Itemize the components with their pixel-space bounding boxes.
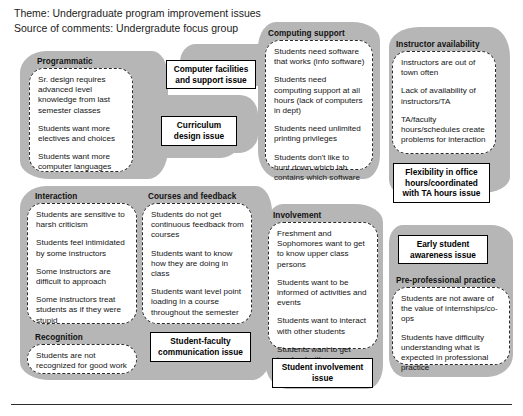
note-text: Students do not get continuous feedback …: [151, 210, 244, 241]
issue-label: Computer facilities and support issue: [171, 64, 251, 85]
issue-box-student-involvement[interactable]: Student involvement issue: [272, 358, 373, 388]
issue-label: Early student awareness issue: [403, 239, 483, 260]
cluster-title-recognition: Recognition: [35, 333, 83, 342]
issue-box-student-faculty-communication[interactable]: Student-faculty communication issue: [150, 332, 251, 362]
affinity-diagram-canvas: Theme: Undergraduate program improvement…: [0, 0, 523, 416]
note-text: Some instructors treat students as if th…: [36, 295, 129, 326]
note-card-recognition: Students are not recognized for good wor…: [27, 344, 137, 374]
issue-box-early-student-awareness[interactable]: Early student awareness issue: [398, 235, 488, 264]
note-text: Students want more computer languages: [38, 152, 125, 172]
cluster-title-involvement: Involvement: [273, 211, 321, 220]
note-text: Students want more electives and choices: [38, 124, 125, 144]
note-text: Students want to know how they are doing…: [151, 249, 244, 280]
note-text: Students are not recognized for good wor…: [36, 351, 129, 371]
note-text: Instructors are out of town often: [401, 58, 488, 78]
note-text: Students need unlimited printing privile…: [274, 124, 365, 144]
note-card-pre-professional-practice: Students are not aware of the value of i…: [392, 287, 510, 365]
note-text: Freshment and Sophomores want to get to …: [277, 229, 370, 270]
note-card-courses-and-feedback: Students do not get continuous feedback …: [142, 203, 252, 324]
issue-label: Student involvement issue: [277, 362, 368, 383]
note-text: Students want to interact with other stu…: [277, 316, 370, 336]
source-line: Source of comments: Undergradute focus g…: [14, 21, 261, 36]
diagram-header: Theme: Undergraduate program improvement…: [14, 6, 261, 35]
note-text: Students have difficulty understanding w…: [401, 333, 502, 374]
bottom-divider: [11, 404, 512, 405]
note-text: Students need computing support at all h…: [274, 75, 365, 116]
note-card-interaction: Students are sensitive to harsh criticis…: [27, 203, 137, 324]
note-text: Students are not aware of the value of i…: [401, 294, 502, 325]
cluster-title-programmatic: Programmatic: [37, 57, 93, 66]
note-text: Students need software that works (info …: [274, 47, 365, 67]
cluster-title-computing-support: Computing support: [268, 29, 345, 38]
note-card-instructor-availability: Instructors are out of town often Lack o…: [392, 51, 496, 154]
cluster-title-pre-professional-practice: Pre-professional practice: [396, 276, 496, 285]
note-text: Lack of availability of instructors/TA: [401, 86, 488, 106]
note-text: Students want level point loading in a c…: [151, 287, 244, 318]
cluster-title-interaction: Interaction: [35, 192, 77, 201]
note-text: Some instructors are difficult to approa…: [36, 267, 129, 287]
issue-label: Curriculum design issue: [166, 120, 232, 141]
theme-line: Theme: Undergraduate program improvement…: [14, 6, 261, 21]
cluster-title-instructor-availability: Instructor availability: [396, 40, 480, 49]
issue-label: Student-faculty communication issue: [155, 336, 246, 357]
issue-box-curriculum-design[interactable]: Curriculum design issue: [161, 116, 237, 146]
note-text: Students are sensitive to harsh criticis…: [36, 210, 129, 230]
note-card-programmatic: Sr. design requires advanced level knowl…: [29, 68, 133, 172]
note-text: Students want to be informed of activiti…: [277, 278, 370, 309]
note-card-involvement: Freshment and Sophomores want to get to …: [268, 222, 378, 349]
note-text: TA/faculty hours/schedules create proble…: [401, 115, 488, 146]
note-text: Sr. design requires advanced level knowl…: [38, 75, 125, 116]
note-card-computing-support: Students need software that works (info …: [265, 40, 373, 170]
issue-box-flexibility-office-hours[interactable]: Flexibility in office hours/coordinated …: [393, 163, 490, 203]
note-text: Students feel intimidated by some instru…: [36, 238, 129, 258]
issue-label: Flexibility in office hours/coordinated …: [398, 167, 485, 199]
issue-box-computer-facilities[interactable]: Computer facilities and support issue: [166, 60, 256, 89]
note-text: Students don't like to hunt down which l…: [274, 153, 365, 184]
cluster-title-courses-and-feedback: Courses and feedback: [148, 192, 236, 201]
